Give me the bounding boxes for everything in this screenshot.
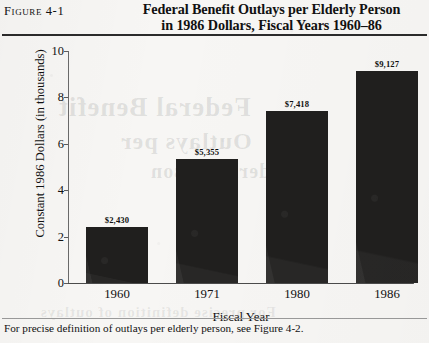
bar-value-label: $9,127	[356, 59, 418, 69]
x-axis-tick-labels: 1960197119801986	[68, 287, 414, 309]
figure-note: For precise definition of outlays per el…	[4, 322, 424, 335]
bar	[356, 71, 418, 283]
header-rule	[2, 34, 427, 36]
x-axis-tick-label: 1971	[176, 287, 238, 302]
bar-value-label: $5,355	[176, 147, 238, 157]
bar-group: $9,127	[356, 51, 418, 283]
bars-layer: $2,430$5,355$7,418$9,127	[68, 38, 414, 283]
y-axis-tick-labels: 0246810	[40, 38, 64, 283]
figure-title: Federal Benefit Outlays per Elderly Pers…	[122, 2, 421, 33]
x-axis-tick-label: 1980	[266, 287, 328, 302]
bar-value-label: $2,430	[86, 215, 148, 225]
bar-value-label: $7,418	[266, 99, 328, 109]
bar-group: $5,355	[176, 51, 238, 283]
figure-page: Federal Benefit Outlays per Elderly Pers…	[0, 0, 429, 343]
figure-title-line-1: Federal Benefit Outlays per Elderly Pers…	[122, 2, 421, 18]
bar-group: $7,418	[266, 51, 328, 283]
bar	[176, 159, 238, 283]
y-axis-tick-label: 10	[52, 45, 64, 57]
bar-group: $2,430	[86, 51, 148, 283]
bar-chart: Constant 1986 Dollars (in thousands) 024…	[0, 38, 429, 303]
bar	[86, 227, 148, 283]
x-axis-tick-label: 1986	[356, 287, 418, 302]
footer-rule	[2, 318, 427, 319]
x-axis-line	[68, 283, 414, 284]
x-axis-tick-label: 1960	[86, 287, 148, 302]
bar	[266, 111, 328, 283]
figure-header: Figure 4-1 Federal Benefit Outlays per E…	[0, 0, 429, 33]
figure-number-label: Figure 4-1	[4, 2, 122, 19]
figure-title-line-2: in 1986 Dollars, Fiscal Years 1960–86	[122, 18, 421, 34]
